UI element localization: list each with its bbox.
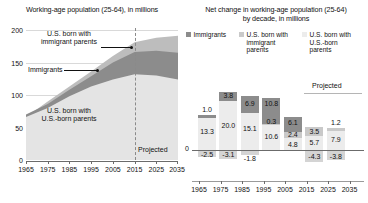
annotation-us-born-immigrant-parents: U.S. born with immigrant parents [30,30,108,46]
bar-group-1995[interactable]: 10.8 0.3 10.6 [262,60,280,170]
bar-x-tick-2015 [307,181,308,184]
x-tick-1965 [26,161,27,164]
legend-swatch-us-born-immigrant-parents [239,32,244,37]
y-tick-150: 150 [11,59,23,66]
bar-label-negative-1965: -2.5 [198,151,216,159]
bar-label-immigrants-1965: 1.0 [198,106,216,114]
bar-label-negative-2015: -4.3 [305,153,323,161]
bar-x-labels: 1965 1975 1985 1995 2005 2015 2025 2035 [184,186,368,196]
x-tick-2025 [156,161,157,164]
bar-group-2025[interactable]: 1.2 7.9 -3.8 [327,60,345,170]
bar-x-label-1995: 1995 [256,186,272,194]
projection-divider [135,28,136,160]
bar-x-label-2025: 2025 [320,186,336,194]
area-x-labels: 1965 1975 1985 1995 2005 2015 2025 2035 [0,166,184,176]
y-tick-100: 100 [11,92,23,99]
bar-label-immigrants-2005: 6.1 [284,119,302,127]
bar-group-2005[interactable]: 6.1 2.4 4.8 [284,60,302,170]
bar-x-tick-1985 [242,181,243,184]
x-label-2005: 2005 [105,166,121,174]
leader-dot-immigrant-parents [130,46,133,49]
bar-label-negative-2025: -3.8 [327,153,345,161]
legend-label-us-born-immigrant-parents: U.S. born with immigrant parents [247,31,288,54]
x-label-2015: 2015 [127,166,143,174]
bar-group-1975[interactable]: 3.8 20.0 -3.1 [219,60,237,170]
bar-x-tick-2005 [285,181,286,184]
bar-x-axis [192,181,364,182]
bar-x-tick-1995 [264,181,265,184]
y-tick-0: 0 [19,157,23,164]
bar-x-label-2035: 2035 [342,186,358,194]
bar-label-immparents-2025: 1.2 [327,119,345,127]
bar-label-immigrants-1995: 10.8 [262,100,280,108]
bar-x-tick-1975 [221,181,222,184]
area-chart-title: Working-age population (25-64), in milli… [0,5,184,14]
bar-label-negative-1985: -1.8 [241,155,259,163]
bar-x-label-1965: 1965 [191,186,207,194]
bar-x-label-2015: 2015 [299,186,315,194]
bar-chart-title-line1: Net change in working-age population (25… [184,5,368,14]
x-tick-2015 [135,161,136,164]
area-series-svg [26,30,178,160]
bar-label-immigrants-1975: 3.8 [219,92,237,100]
x-label-1985: 1985 [62,166,78,174]
bar-x-tick-2025 [328,181,329,184]
bar-label-usborn-1995: 10.6 [262,133,280,141]
bar-chart-panel: Net change in working-age population (25… [184,0,368,203]
legend-label-us-born-us-born-parents: U.S. born with U.S.-born parents [310,31,351,54]
legend-swatch-us-born-us-born-parents [302,32,307,37]
area-x-axis [26,161,178,162]
bar-chart-legend: Immigrants U.S. born with immigrant pare… [186,31,368,57]
leader-dot-immigrants [96,69,99,72]
bar-label-negative-1975: -3.1 [219,151,237,159]
bar-x-label-1975: 1975 [213,186,229,194]
y-tick-200: 200 [11,27,23,34]
bar-label-immparents-2015: 3.5 [305,128,323,136]
bar-x-label-1985: 1985 [234,186,250,194]
x-label-2035: 2035 [169,166,185,174]
bar-label-immparents-1995: 0.3 [262,118,280,126]
x-label-1965: 1965 [18,166,34,174]
bar-label-usborn-2005: 4.8 [284,141,302,149]
bar-plot-region: Projected 0 1.0 13.3 -2.5 3.8 20.0 -3.1 [192,60,364,170]
bar-label-usborn-1965: 13.3 [198,128,216,136]
bar-label-usborn-1975: 20.0 [219,122,237,130]
x-label-1975: 1975 [40,166,56,174]
bar-x-tick-1965 [199,181,200,184]
leader-line-immigrant-parents [101,47,132,48]
bar-group-2015[interactable]: 3.5 5.7 -4.3 [305,60,323,170]
x-tick-1975 [48,161,49,164]
bar-chart-title-line2: by decade, in millions [184,14,368,23]
bar-label-immigrants-1985: 6.9 [241,100,259,108]
bar-label-usborn-1985: 15.1 [241,125,259,133]
legend-item-us-born-immigrant-parents: U.S. born with immigrant parents [239,31,288,54]
annotation-immigrants: Immigrants [28,66,63,74]
bar-label-usborn-2015: 5.7 [305,139,323,147]
x-tick-2035 [177,161,178,164]
bar-group-1965[interactable]: 1.0 13.3 -2.5 [198,60,216,170]
legend-item-us-born-us-born-parents: U.S. born with U.S.-born parents [302,31,351,54]
bar-group-1985[interactable]: 6.9 15.1 -1.8 [241,60,259,170]
legend-item-immigrants: Immigrants [186,31,226,39]
x-label-2025: 2025 [149,166,165,174]
bar-x-tick-2035 [350,181,351,184]
legend-swatch-immigrants [186,32,191,37]
y-tick-50: 50 [15,124,23,131]
x-label-1995: 1995 [83,166,99,174]
bar-x-label-2005: 2005 [277,186,293,194]
area-chart-panel: Working-age population (25-64), in milli… [0,0,184,203]
area-plot-region: 200 150 100 50 0 [26,30,178,160]
bar-label-immparents-2005: 2.4 [284,131,302,139]
bar-label-usborn-2025: 7.9 [327,136,345,144]
leader-line-immigrants [64,70,98,71]
legend-label-immigrants: Immigrants [194,31,227,39]
bar-zero-label: 0 [185,145,189,152]
x-tick-1985 [69,161,70,164]
projected-label-left: Projected [138,146,168,153]
x-tick-1995 [91,161,92,164]
annotation-us-born-us-born-parents: U.S. born with U.S.-born parents [28,107,110,123]
x-tick-2005 [113,161,114,164]
chart-pair-container: Working-age population (25-64), in milli… [0,0,368,203]
